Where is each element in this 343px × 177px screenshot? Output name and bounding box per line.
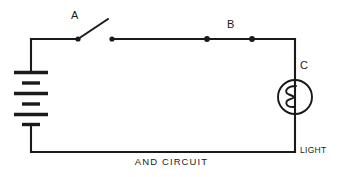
switch-a-blade[interactable] [78,19,108,39]
lamp-state-text: LIGHT OFF [300,124,327,177]
diagram-caption: AND CIRCUIT [0,157,343,167]
switch-a-pivot-contact-dot [75,36,80,41]
switch-b-left-contact-dot [204,36,210,42]
circuit-schematic-svg [0,0,343,177]
switch-a-label: A [71,10,78,22]
switch-a[interactable] [75,19,114,42]
switch-a-open-contact-dot [109,36,114,41]
lamp-c-label: C [300,60,308,72]
switch-b-right-contact-dot [249,36,255,42]
circuit-diagram: A B C LIGHT OFF AND CIRCUIT [0,0,343,177]
switch-b-label: B [227,19,234,31]
circuit-wires [31,39,295,152]
battery-symbol [14,73,48,125]
lamp-state-line-1: LIGHT [300,145,327,156]
